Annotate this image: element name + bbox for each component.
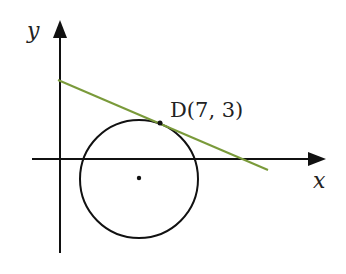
y-axis-label: y bbox=[26, 18, 40, 43]
point-d-label: D(7, 3) bbox=[170, 98, 243, 122]
tangent-line bbox=[58, 80, 268, 170]
coordinate-diagram: D(7, 3) x y bbox=[0, 0, 346, 274]
tangent-point-d bbox=[158, 121, 163, 126]
y-axis-arrow-icon bbox=[53, 20, 67, 38]
circle-center-dot bbox=[137, 176, 141, 180]
x-axis-arrow-icon bbox=[308, 152, 326, 166]
x-axis-label: x bbox=[313, 168, 326, 193]
